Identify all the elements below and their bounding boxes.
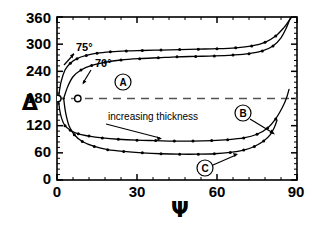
data-point [256,133,259,136]
y-tick-label-0: 0 [43,170,51,187]
data-point [250,44,253,47]
increasing-thickness-label: increasing thickness [108,111,198,122]
x-tick-label-30: 30 [129,183,146,200]
data-point [64,124,67,127]
y-tick-label-60: 60 [34,143,51,160]
data-point [229,151,232,154]
data-point [90,64,93,67]
data-point [213,54,216,57]
label-b-text: B [239,108,246,119]
data-point [178,48,181,51]
label-c-text: C [201,163,208,174]
data-point [93,145,96,148]
data-point [136,139,139,142]
data-point [117,138,120,141]
data-point [216,47,219,50]
x-tick-label-90: 90 [288,183,305,200]
y-tick-label-360: 360 [26,9,51,26]
y-tick-label-300: 300 [26,35,51,52]
x-axis-label: Ψ [171,198,189,222]
data-point [85,54,88,57]
data-point [77,132,80,135]
data-point [141,49,144,52]
data-point [81,140,84,143]
data-point [141,151,144,154]
y-tick-label-120: 120 [26,116,51,133]
data-point [274,117,277,120]
data-point [272,44,275,47]
data-point [274,35,277,38]
data-point [88,135,91,138]
data-point [73,133,76,136]
label-c-badge: C [197,160,213,176]
data-point [173,140,176,143]
label-b-badge: B [235,105,251,121]
angle-70-label: 70° [95,57,112,69]
data-point [213,152,216,155]
data-point [160,49,163,52]
data-point [120,59,123,62]
data-point [253,145,256,148]
open-circle-second [75,95,81,101]
data-point [264,41,267,44]
data-point [154,139,157,142]
data-point [106,148,109,151]
data-point [232,54,235,57]
data-point [261,49,264,52]
data-point [138,57,141,60]
data-point [194,55,197,58]
data-point [109,50,112,53]
label-a-text: A [119,77,126,88]
data-point [234,46,237,49]
data-point [157,56,160,59]
data-point [101,136,104,139]
x-tick-label-0: 0 [53,183,61,200]
data-point [242,149,245,152]
x-tick-label-60: 60 [209,183,226,200]
data-point [226,138,229,141]
data-point [178,153,181,156]
angle-75-label: 75° [76,41,93,53]
data-point [262,140,265,143]
data-point [76,57,79,60]
label-a-badge: A [115,74,131,90]
y-tick-label-240: 240 [26,62,51,79]
data-point [242,136,245,139]
data-point [192,140,195,143]
data-point [176,55,179,58]
data-point [248,52,251,55]
data-point [69,129,72,132]
data-point [80,68,83,71]
ellipsometry-delta-psi-chart: 360 300 240 180 120 60 0 0 30 60 90 Δ Ψ … [0,0,312,225]
data-point [125,49,128,52]
y-axis-label: Δ [22,91,39,115]
data-point [197,48,200,51]
data-point [197,153,200,156]
data-point [160,152,163,155]
data-point [122,150,125,153]
data-point [69,62,72,65]
data-point [96,52,99,55]
data-point [210,139,213,142]
